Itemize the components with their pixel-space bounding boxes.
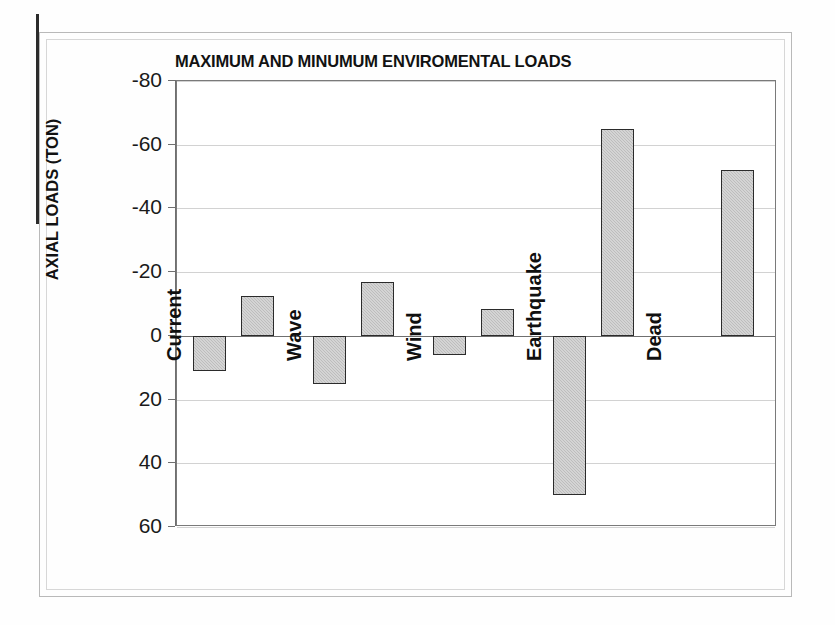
category-label-wave: Wave [283,309,306,361]
y-axis-tick-label: -80 [102,68,162,92]
gridline [177,400,775,401]
bar-chart: MAXIMUM AND MINUMUM ENVIROMENTAL LOADS A… [0,0,835,625]
gridline [177,145,775,146]
bar [721,170,754,336]
y-axis-tick-label: 60 [102,514,162,538]
bar [433,336,466,355]
gridline [177,272,775,273]
y-axis-title: AXIAL LOADS (TON) [43,90,62,310]
y-axis-tick-mark [168,399,175,400]
y-axis-tick-mark [168,144,175,145]
y-axis-tick-mark [168,271,175,272]
bar [313,336,346,384]
category-label-wind: Wind [403,312,426,361]
bar [193,336,226,371]
y-axis-tick-label: -40 [102,195,162,219]
zero-baseline [177,336,775,337]
category-label-current: Current [163,289,186,361]
bar [481,309,514,336]
gridline [177,527,775,528]
category-label-earthquake: Earthquake [523,252,546,361]
y-axis-tick-label: -20 [102,259,162,283]
y-axis-tick-label: 20 [102,387,162,411]
y-axis-tick-mark [168,80,175,81]
chart-title: MAXIMUM AND MINUMUM ENVIROMENTAL LOADS [175,52,775,71]
gridline [177,463,775,464]
y-axis-tick-mark [168,526,175,527]
y-axis-tick-label: -60 [102,132,162,156]
bar [553,336,586,495]
category-label-dead: Dead [643,312,666,361]
y-axis-tick-mark [168,207,175,208]
scanned-page: MAXIMUM AND MINUMUM ENVIROMENTAL LOADS A… [0,0,835,625]
y-axis-tick-label: 40 [102,450,162,474]
y-axis-tick-mark [168,462,175,463]
bar [601,129,634,336]
plot-area [176,80,776,526]
gridline [177,81,775,82]
bar [361,282,394,336]
gridline [177,208,775,209]
y-axis-tick-label: 0 [102,323,162,347]
bar [241,296,274,336]
